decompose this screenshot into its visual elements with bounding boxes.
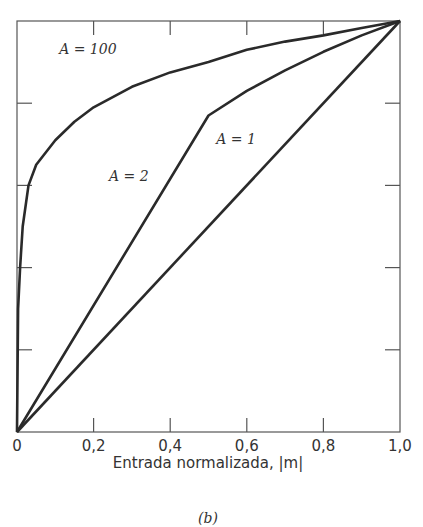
series-line: [17, 21, 400, 432]
caption: (b): [198, 510, 218, 526]
x-tick-label: 0,4: [158, 437, 182, 455]
x-tick-labels: 00,20,40,60,81,0: [12, 437, 412, 455]
plot-area: A = 100A = 2A = 1: [17, 21, 400, 432]
series-annotation: A = 1: [214, 131, 256, 147]
x-tick-label: 0: [12, 437, 22, 455]
x-tick-label: 1,0: [388, 437, 412, 455]
x-tick-label: 0,6: [235, 437, 259, 455]
chart: A = 100A = 2A = 1 00,20,40,60,81,0 Entra…: [0, 0, 423, 527]
x-tick-label: 0,2: [82, 437, 106, 455]
series-annotation: A = 100: [57, 41, 117, 57]
series-annotation: A = 2: [107, 168, 149, 184]
x-axis-label: Entrada normalizada, |m|: [113, 454, 303, 472]
x-tick-label: 0,8: [311, 437, 335, 455]
